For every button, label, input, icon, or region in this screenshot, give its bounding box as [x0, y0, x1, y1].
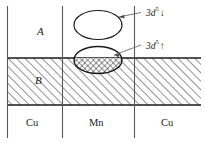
state-annotation-minority: 3d5↓: [146, 7, 165, 19]
state-term-minority: 3d: [146, 8, 156, 18]
state-annotation-majority: 3d5↑: [146, 40, 165, 52]
state-term-majority: 3d: [146, 41, 156, 51]
down-arrow-icon: ↓: [159, 7, 165, 18]
layer-label-cu-right: Cu: [161, 118, 173, 129]
leader-line-majority: [114, 45, 141, 55]
state-exponent-minority: 5: [156, 5, 159, 12]
region-label-b: B: [35, 75, 42, 86]
layer-label-mn: Mn: [89, 118, 104, 129]
state-ellipse-minority: [74, 11, 122, 40]
region-label-a: A: [37, 26, 44, 37]
layer-label-cu-left: Cu: [26, 118, 38, 129]
figure-root: A B Cu Mn Cu 3d5↓ 3d5↑: [0, 0, 205, 143]
state-exponent-majority: 5: [156, 38, 159, 45]
up-arrow-icon: ↑: [159, 40, 165, 51]
